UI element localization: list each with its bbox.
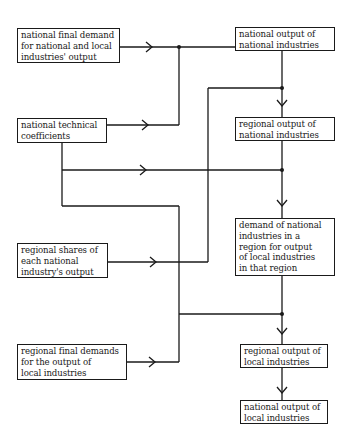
node-text-line: regional final demands [21,346,123,357]
node-text-line: regional output of [244,346,324,357]
node-text-line: national industries [239,130,331,141]
node-national-technical-coefficients: national technical coefficients [17,118,107,143]
node-text-line: for national and local [21,41,116,52]
node-text-line: local industries [244,413,324,424]
node-text-line: national industries [239,40,331,51]
node-national-final-demand: national final demand for national and l… [17,28,120,63]
node-text-line: local industries [21,368,123,379]
node-regional-output-national-industries: regional output of national industries [235,117,335,141]
node-national-output-national-industries: national output of national industries [235,27,335,51]
node-text-line: region for output [239,242,331,253]
node-regional-final-demands: regional final demands for the output of… [17,344,127,380]
node-text-line: national final demand [21,30,116,41]
node-national-output-local-industries: national output of local industries [240,400,328,424]
node-demand-national-industries-region: demand of national industries in a regio… [235,218,335,276]
node-regional-output-local-industries: regional output of local industries [240,344,328,368]
node-text-line: for the output of [21,357,123,368]
node-text-line: national output of [239,29,331,40]
node-text-line: industries' output [21,52,116,63]
node-text-line: in that region [239,263,331,274]
node-text-line: regional shares of [21,245,104,256]
node-text-line: industry's output [21,267,104,278]
node-text-line: local industries [244,357,324,368]
node-text-line: of local industries [239,252,331,263]
node-text-line: each national [21,256,104,267]
node-regional-shares: regional shares of each national industr… [17,243,108,278]
node-text-line: coefficients [21,131,103,142]
node-text-line: regional output of [239,119,331,130]
node-text-line: national output of [244,402,324,413]
node-text-line: demand of national [239,220,331,231]
node-text-line: national technical [21,120,103,131]
node-text-line: industries in a [239,231,331,242]
